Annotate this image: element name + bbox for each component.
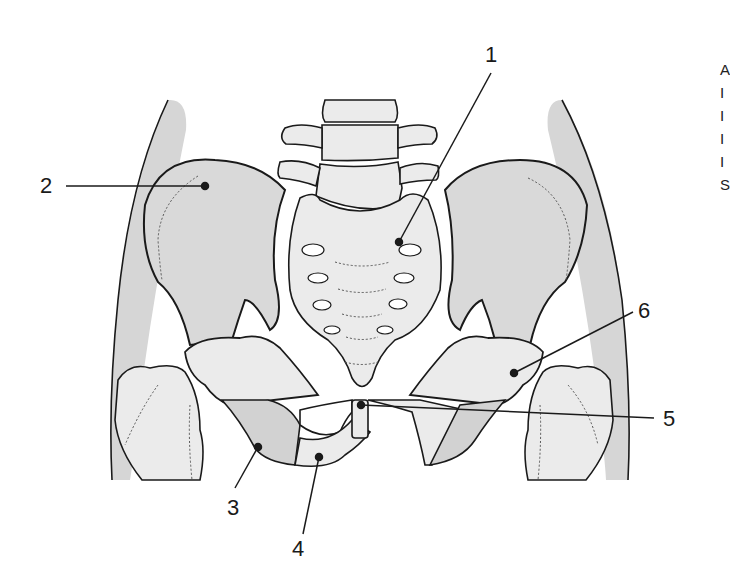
label-2: 2 [40,175,52,197]
edge-text-fragment: I [720,131,724,146]
edge-text-fragment: A [720,62,730,77]
sacrum [289,194,441,387]
right-ilium [445,160,587,345]
edge-text-fragment: I [720,154,724,169]
left-ilium [144,160,285,345]
label-6: 6 [638,300,650,322]
edge-text-fragment: S [720,177,730,192]
lumbar-vertebrae [278,100,439,209]
label-3: 3 [227,497,239,519]
edge-text-fragment: I [720,108,724,123]
edge-text-fragment: I [720,85,724,100]
label-4: 4 [292,538,304,560]
label-5: 5 [663,408,675,430]
label-1: 1 [485,44,497,66]
